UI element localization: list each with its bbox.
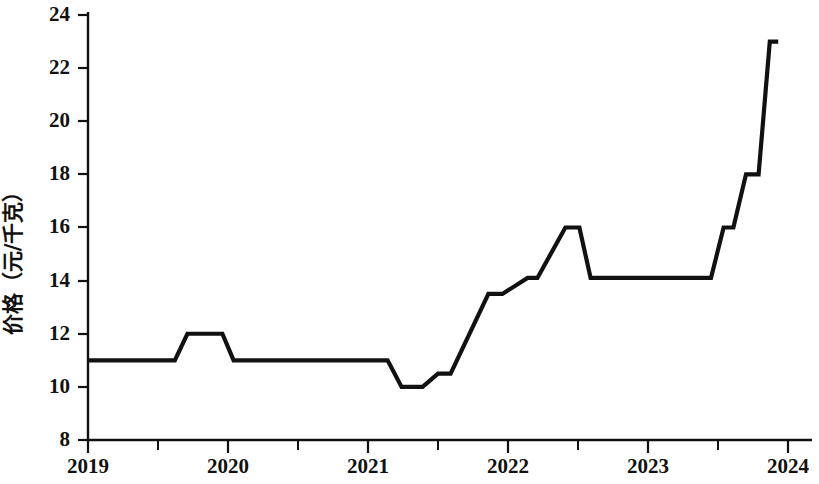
x-tick-label-2020: 2020 bbox=[207, 454, 249, 478]
price-series-line bbox=[88, 42, 778, 387]
x-tick-label-2021: 2021 bbox=[347, 454, 389, 478]
y-tick-label-12: 12 bbox=[49, 321, 70, 345]
x-tick-label-2024: 2024 bbox=[767, 454, 810, 478]
y-axis-title: 价格（元/千克） bbox=[1, 181, 25, 336]
y-tick-label-14: 14 bbox=[49, 268, 71, 292]
y-axis-labels: 24 22 20 18 16 14 12 10 8 bbox=[49, 2, 71, 451]
x-tick-label-2019: 2019 bbox=[67, 454, 109, 478]
x-tick-label-2023: 2023 bbox=[627, 454, 669, 478]
y-tick-label-22: 22 bbox=[49, 55, 70, 79]
x-tick-label-2022: 2022 bbox=[487, 454, 529, 478]
price-line-chart: 价格（元/千克） 24 22 20 18 16 14 12 10 8 bbox=[0, 0, 819, 484]
y-tick-label-24: 24 bbox=[49, 2, 71, 26]
y-tick-label-10: 10 bbox=[49, 374, 70, 398]
y-tick-label-8: 8 bbox=[60, 427, 71, 451]
chart-canvas: 价格（元/千克） 24 22 20 18 16 14 12 10 8 bbox=[0, 0, 819, 484]
y-tick-label-18: 18 bbox=[49, 161, 70, 185]
x-axis-labels: 2019 2020 2021 2022 2023 2024 bbox=[67, 454, 810, 478]
y-tick-label-16: 16 bbox=[49, 214, 70, 238]
y-axis-ticks bbox=[78, 15, 88, 440]
x-axis-minor-ticks bbox=[158, 440, 718, 450]
y-tick-label-20: 20 bbox=[49, 108, 70, 132]
